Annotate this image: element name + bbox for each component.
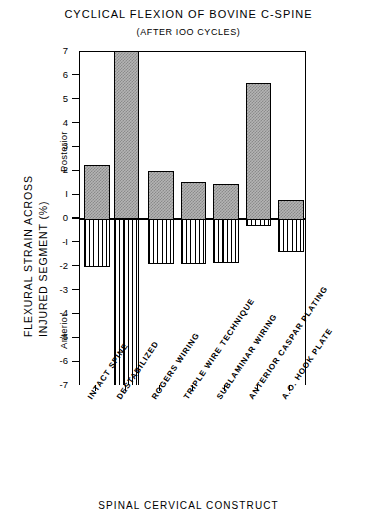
y-tick [72,194,79,195]
x-axis-title: SPINAL CERVICAL CONSTRUCT [0,500,377,511]
y-tick [72,74,79,75]
bar-negative [181,219,207,264]
chart-title: CYCLICAL FLEXION OF BOVINE C-SPINE [0,8,377,20]
bar-negative [84,219,110,267]
y-tick-label: -3 [42,285,68,295]
y-tick-label: 2 [42,165,68,175]
y-tick-label: 3 [42,141,68,151]
chart-subtitle: (AFTER IOO CYCLES) [0,27,377,37]
bar-positive [114,51,140,219]
bar-positive [213,184,239,219]
y-tick [72,265,79,266]
y-tick-label: -2 [42,261,68,271]
y-tick [72,241,79,242]
y-axis-title-line1: FLEXURAL STRAIN ACROSS [22,175,34,337]
y-tick-label: 4 [42,118,68,128]
chart-figure: CYCLICAL FLEXION OF BOVINE C-SPINE (AFTE… [0,0,377,532]
y-tick-label: 7 [42,46,68,56]
y-tick [72,170,79,171]
bar-negative [278,219,304,252]
bar-negative [246,219,272,226]
y-tick [72,98,79,99]
bar-positive [148,171,174,219]
y-tick-label: -4 [42,308,68,318]
y-tick [72,122,79,123]
bar-negative [148,219,174,264]
bar-positive [84,165,110,219]
bar-positive [181,182,207,220]
bar-negative [213,219,239,263]
y-tick-label: -5 [42,332,68,342]
y-tick [72,361,79,362]
y-tick-label: I [42,189,68,199]
y-tick-label: -6 [42,356,68,366]
y-tick [72,217,79,218]
y-tick [72,337,79,338]
y-tick-label: 0 [42,213,68,223]
y-tick [72,146,79,147]
y-tick [72,289,79,290]
bar-positive [246,83,272,220]
y-tick-label: 5 [42,94,68,104]
y-tick [72,313,79,314]
y-tick-label: -I [42,237,68,247]
bar-positive [278,200,304,220]
y-tick-label: -7 [42,380,68,390]
y-tick-label: 6 [42,70,68,80]
